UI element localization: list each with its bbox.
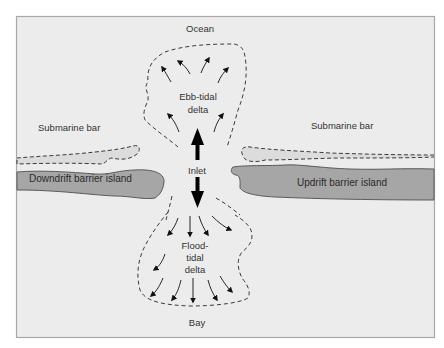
downdrift-barrier-island-label: Downdrift barrier island <box>29 173 132 184</box>
ebb-tidal-delta-label-line1: Ebb-tidal <box>179 91 217 102</box>
flood-tidal-delta-label-line2: tidal <box>186 252 203 263</box>
flood-tidal-delta-label-line1: Flood- <box>182 240 209 251</box>
flood-tidal-delta-label-line3: delta <box>185 264 206 275</box>
updrift-barrier-island-label: Updrift barrier island <box>297 177 387 188</box>
ebb-tidal-delta-label-line2: delta <box>188 104 209 115</box>
ocean-label: Ocean <box>186 23 214 34</box>
bay-label: Bay <box>189 317 206 328</box>
inlet-label: Inlet <box>188 165 206 176</box>
submarine-bar-left-label: Submarine bar <box>38 122 100 133</box>
tidal-inlet-diagram: Ocean Ebb-tidal delta Submarine bar Subm… <box>0 0 444 348</box>
submarine-bar-right-label: Submarine bar <box>311 120 373 131</box>
